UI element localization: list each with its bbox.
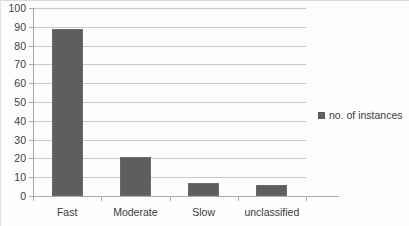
plot-area: [33, 8, 306, 196]
x-axis-tick-mark: [306, 196, 307, 201]
bar: [256, 185, 287, 196]
gridline: [33, 27, 306, 28]
y-axis-tick-label: 10: [0, 172, 26, 182]
legend-swatch-icon: [318, 112, 325, 119]
y-axis-tick-label: 70: [0, 59, 26, 69]
x-axis-category-label: unclassified: [238, 206, 306, 218]
y-axis-tick-label: 20: [0, 153, 26, 163]
x-axis-category-label: Slow: [170, 206, 238, 218]
y-axis-tick-label: 0: [0, 191, 26, 201]
legend: no. of instances: [318, 110, 403, 121]
x-axis-tick-mark: [170, 196, 171, 201]
x-axis-category-label: Moderate: [101, 206, 169, 218]
x-axis-tick-mark: [101, 196, 102, 201]
y-axis-line: [33, 8, 34, 197]
x-axis-category-label: Fast: [33, 206, 101, 218]
scan-edge-top: [0, 0, 409, 1]
y-axis-tick-label: 60: [0, 78, 26, 88]
y-axis-tick-label: 90: [0, 22, 26, 32]
legend-entry-label: no. of instances: [329, 110, 403, 121]
x-axis-tick-mark: [33, 196, 34, 201]
y-axis-tick-label: 80: [0, 41, 26, 51]
y-axis-tick-label: 40: [0, 116, 26, 126]
x-axis-tick-mark: [238, 196, 239, 201]
bar: [120, 157, 151, 196]
bar: [52, 29, 83, 196]
y-axis-tick-label: 30: [0, 135, 26, 145]
y-axis-tick-label: 100: [0, 3, 26, 13]
bar-chart: 0102030405060708090100 FastModerateSlowu…: [0, 0, 409, 226]
gridline: [33, 8, 306, 9]
y-axis-tick-label: 50: [0, 97, 26, 107]
x-axis-line: [33, 196, 339, 197]
bar: [188, 183, 219, 196]
